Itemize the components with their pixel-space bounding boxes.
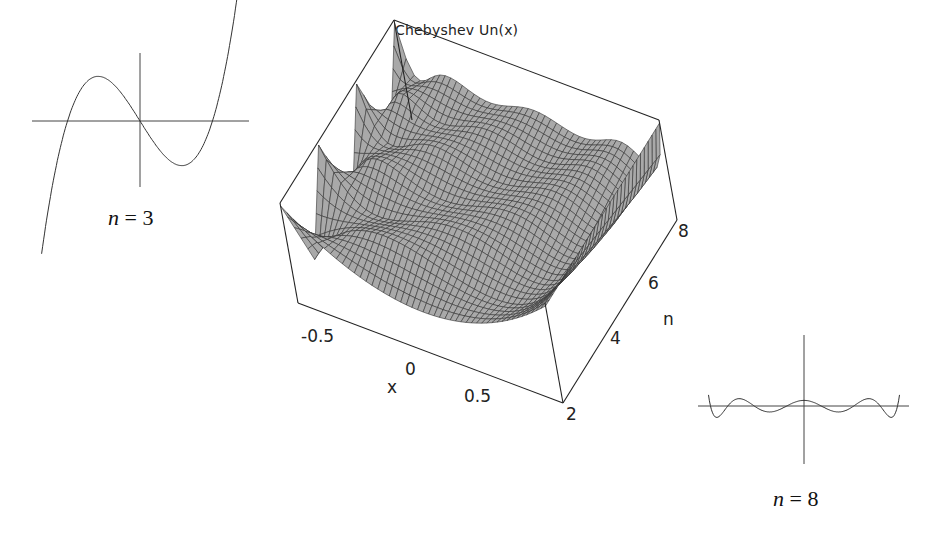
x-tick-neg-half: -0.5 <box>301 326 334 346</box>
x-tick-zero: 0 <box>405 359 416 379</box>
surface-mesh <box>281 23 661 323</box>
mini-plot-n8 <box>698 335 909 464</box>
n-tick-2: 2 <box>566 404 577 424</box>
n-tick-6: 6 <box>648 273 659 293</box>
n-tick-4: 4 <box>610 328 621 348</box>
n-axis-label: n <box>663 309 674 329</box>
x-tick-pos-half: 0.5 <box>464 386 491 406</box>
mini-plot-n3-label: n = 3 <box>108 205 153 231</box>
mini-plot-n8-label: n = 8 <box>773 486 818 512</box>
x-axis-label: x <box>387 377 397 397</box>
surface-plot <box>0 0 933 540</box>
n-tick-8: 8 <box>678 221 689 241</box>
